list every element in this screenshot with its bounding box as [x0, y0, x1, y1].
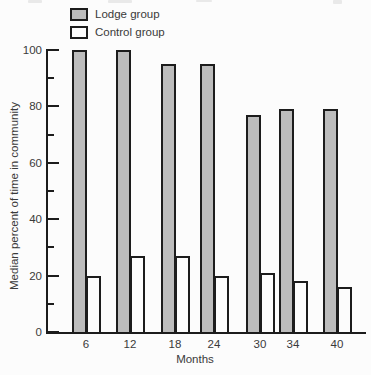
bar-chart-figure: Lodge group Control group Median percent… [0, 0, 371, 375]
bar-lodge-30 [246, 115, 261, 332]
x-axis-line [46, 332, 366, 334]
bar-lodge-6 [72, 50, 87, 332]
bar-control-12 [130, 256, 145, 332]
bar-lodge-12 [116, 50, 131, 332]
scan-artifact [196, 0, 212, 2]
x-tick-label-24: 24 [199, 338, 229, 350]
y-major-tick-60 [48, 162, 59, 164]
y-tick-label-40: 40 [16, 213, 42, 225]
bar-lodge-18 [161, 64, 176, 332]
x-tick-label-12: 12 [115, 338, 145, 350]
legend-label-control: Control group [95, 26, 165, 39]
bar-control-34 [293, 281, 308, 332]
y-tick-label-100: 100 [16, 44, 42, 56]
x-axis-title: Months [140, 353, 250, 365]
x-tick-label-6: 6 [71, 338, 101, 350]
x-tick-label-40: 40 [322, 338, 352, 350]
x-tick-label-34: 34 [278, 338, 308, 350]
scan-artifact [333, 0, 342, 4]
y-tick-label-60: 60 [16, 157, 42, 169]
y-minor-tick-70 [48, 134, 54, 136]
y-major-tick-20 [48, 275, 59, 277]
scan-artifact [28, 0, 42, 3]
y-major-tick-40 [48, 218, 59, 220]
y-minor-tick-10 [48, 303, 54, 305]
y-minor-tick-30 [48, 246, 54, 248]
bar-control-18 [175, 256, 190, 332]
y-major-tick-100 [48, 49, 59, 51]
control-swatch-icon [70, 26, 88, 39]
bar-lodge-24 [200, 64, 215, 332]
y-tick-label-80: 80 [16, 100, 42, 112]
x-tick-label-30: 30 [245, 338, 275, 350]
lodge-swatch-icon [70, 8, 88, 21]
bar-control-30 [260, 273, 275, 332]
y-major-tick-80 [48, 105, 59, 107]
bar-lodge-40 [323, 109, 338, 332]
bar-control-6 [86, 276, 101, 332]
y-minor-tick-90 [48, 77, 54, 79]
y-tick-label-0: 0 [16, 326, 42, 338]
legend-label-lodge: Lodge group [95, 8, 160, 21]
x-tick-label-18: 18 [160, 338, 190, 350]
y-minor-tick-50 [48, 190, 54, 192]
scan-artifact [108, 0, 132, 3]
y-tick-label-20: 20 [16, 270, 42, 282]
bar-control-40 [337, 287, 352, 332]
bar-control-24 [214, 276, 229, 332]
bar-lodge-34 [279, 109, 294, 332]
y-major-tick-0 [48, 331, 59, 333]
